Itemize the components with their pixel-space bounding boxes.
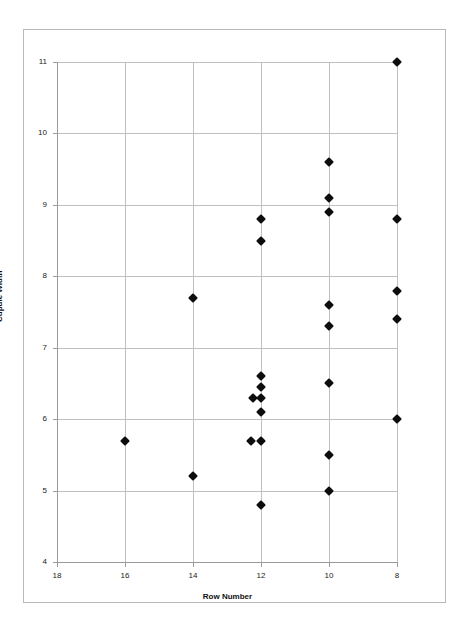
x-tick-mark — [57, 563, 58, 567]
gridline-vertical — [193, 62, 194, 562]
gridline-horizontal — [57, 133, 397, 134]
y-tick-label: 8 — [23, 272, 47, 280]
gridline-horizontal — [57, 491, 397, 492]
x-tick-label: 18 — [42, 572, 72, 580]
x-tick-label: 16 — [110, 572, 140, 580]
gridline-horizontal — [57, 419, 397, 420]
x-tick-mark — [125, 563, 126, 567]
x-axis-title: Row Number — [57, 592, 398, 601]
x-tick-label: 14 — [178, 572, 208, 580]
gridline-horizontal — [57, 276, 397, 277]
y-tick-mark — [53, 205, 57, 206]
y-tick-mark — [53, 419, 57, 420]
y-axis-title: Cupule Width — [0, 271, 4, 322]
plot-area — [57, 62, 397, 562]
y-tick-mark — [53, 348, 57, 349]
x-axis-line — [57, 562, 398, 563]
x-tick-mark — [329, 563, 330, 567]
y-tick-label: 9 — [23, 201, 47, 209]
x-tick-label: 12 — [246, 572, 276, 580]
gridline-horizontal — [57, 62, 397, 63]
gridline-vertical — [397, 62, 398, 562]
y-tick-label: 4 — [23, 558, 47, 566]
y-tick-label: 6 — [23, 415, 47, 423]
y-tick-mark — [53, 133, 57, 134]
x-tick-label: 10 — [314, 572, 344, 580]
x-tick-mark — [397, 563, 398, 567]
gridline-horizontal — [57, 205, 397, 206]
y-tick-mark — [53, 491, 57, 492]
gridline-vertical — [125, 62, 126, 562]
y-tick-mark — [53, 62, 57, 63]
gridline-horizontal — [57, 348, 397, 349]
scatter-chart: 456789101118161412108 Cupule Width Row N… — [0, 0, 469, 644]
gridline-vertical — [261, 62, 262, 562]
y-tick-label: 7 — [23, 344, 47, 352]
y-tick-label: 11 — [23, 58, 47, 66]
y-tick-mark — [53, 276, 57, 277]
x-tick-mark — [261, 563, 262, 567]
y-axis-line — [57, 62, 58, 563]
x-tick-label: 8 — [382, 572, 412, 580]
y-tick-label: 10 — [23, 129, 47, 137]
x-tick-mark — [193, 563, 194, 567]
y-tick-label: 5 — [23, 487, 47, 495]
